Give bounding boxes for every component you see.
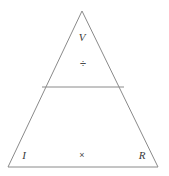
triangle-outline-shape (8, 11, 158, 167)
ohms-law-triangle-diagram: V ÷ I × R (0, 0, 169, 176)
triangle-outline-graphic (0, 0, 169, 176)
